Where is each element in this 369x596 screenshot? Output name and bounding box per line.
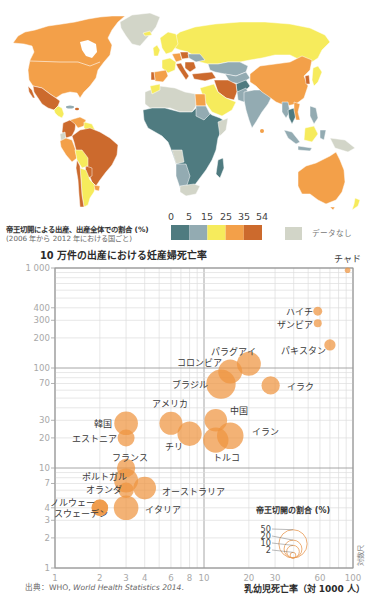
x-tick-label: 4 bbox=[142, 573, 147, 583]
x-tick-label: 20 bbox=[243, 573, 254, 583]
region-new-guinea bbox=[330, 138, 355, 152]
region-portugal bbox=[151, 72, 155, 80]
y-tick-label: 10 bbox=[39, 463, 50, 473]
point-label: ザンビア bbox=[277, 320, 313, 330]
legend-no-data-label: データなし bbox=[312, 228, 352, 238]
y-axis-ticks: 12347102030701002003004001 000 bbox=[25, 263, 55, 573]
source-prefix: 出典：WHO, bbox=[25, 582, 73, 592]
data-bubble bbox=[206, 369, 235, 398]
x-tick-label: 1 bbox=[52, 573, 57, 583]
region-north-america bbox=[13, 16, 125, 98]
point-label: ハイチ bbox=[286, 307, 313, 317]
y-tick-label: 300 bbox=[34, 315, 50, 325]
region-uruguay bbox=[94, 185, 100, 191]
point-label: チリ bbox=[165, 442, 183, 452]
region-korea bbox=[305, 75, 310, 84]
data-bubble bbox=[133, 477, 156, 500]
x-tick-label: 100 bbox=[345, 573, 361, 583]
point-label: ポルトガル bbox=[82, 472, 127, 482]
data-bubble bbox=[314, 319, 322, 327]
legend-break-5: 54 bbox=[256, 211, 268, 222]
chart-point-labels: チャドハイチザンビアパキスタンパラグアイコロンビアブラジルイラクアメリカ中国イラ… bbox=[50, 254, 361, 519]
data-bubble bbox=[313, 307, 322, 316]
chart-bubbles bbox=[92, 267, 351, 520]
data-bubble bbox=[114, 495, 139, 520]
world-choropleth-map bbox=[13, 13, 360, 210]
source-suffix: . bbox=[181, 583, 183, 592]
region-south-africa bbox=[180, 184, 200, 196]
legend-break-0: 0 bbox=[168, 211, 174, 222]
log-scale-note: 対数尺 bbox=[356, 544, 365, 566]
region-sulawesi bbox=[320, 130, 326, 140]
region-greenland bbox=[120, 13, 160, 46]
x-tick-label: 10 bbox=[199, 573, 210, 583]
y-tick-label: 20 bbox=[39, 433, 50, 443]
x-tick-label: 3 bbox=[123, 573, 128, 583]
point-label: エストニア bbox=[72, 434, 117, 444]
infographic: 帝王切開による出産、出産全体での割合 (%) (2006 年から 2012 年に… bbox=[0, 0, 369, 596]
y-tick-label: 3 bbox=[45, 515, 50, 525]
point-label: フランス bbox=[112, 453, 148, 463]
point-label: ノルウェー bbox=[50, 498, 95, 508]
legend-swatch-5-15 bbox=[189, 225, 207, 240]
y-tick-label: 30 bbox=[39, 415, 50, 425]
point-label: パキスタン bbox=[281, 346, 326, 356]
data-bubble bbox=[118, 429, 135, 446]
source-note: 出典：WHO, World Health Statistics 2014. bbox=[25, 582, 184, 592]
legend-break-2: 15 bbox=[201, 211, 213, 222]
size-legend-circles: 5020102 bbox=[261, 524, 308, 558]
x-tick-label: 60 bbox=[314, 573, 325, 583]
x-tick-label: 2 bbox=[97, 573, 102, 583]
legend-swatch-15-25 bbox=[207, 225, 225, 240]
region-uk bbox=[153, 45, 160, 56]
size-legend-circle bbox=[279, 530, 307, 558]
legend-break-3: 25 bbox=[220, 211, 232, 222]
region-sumatra bbox=[284, 130, 300, 144]
y-tick-label: 1 000 bbox=[25, 263, 50, 273]
point-label: オランダ bbox=[86, 484, 122, 495]
region-angola bbox=[172, 150, 184, 164]
region-borneo bbox=[304, 126, 318, 142]
point-label: イタリア bbox=[145, 505, 181, 515]
point-label: イラン bbox=[252, 427, 279, 437]
x-axis-ticks: 12346810203060100 bbox=[52, 573, 361, 583]
legend-swatch-35-54 bbox=[244, 225, 262, 240]
point-label: アメリカ bbox=[152, 399, 188, 409]
region-scandinavia bbox=[160, 32, 178, 54]
point-label: オーストラリア bbox=[162, 487, 225, 497]
y-tick-label: 70 bbox=[39, 378, 50, 388]
region-philippines bbox=[310, 106, 318, 124]
region-turkey bbox=[192, 72, 216, 81]
point-label: コロンビア bbox=[177, 358, 222, 368]
source-title: World Health Statistics 2014 bbox=[73, 583, 182, 592]
region-egypt bbox=[195, 94, 206, 106]
legend-break-4: 35 bbox=[238, 211, 250, 222]
size-legend-circle bbox=[284, 540, 302, 558]
point-label: パラグアイ bbox=[211, 346, 256, 357]
region-sri-lanka bbox=[260, 129, 264, 133]
point-label: 中国 bbox=[230, 405, 248, 416]
region-caribbean-1 bbox=[66, 106, 74, 109]
map-legend: 帝王切開による出産、出産全体での割合 (%) (2006 年から 2012 年に… bbox=[6, 211, 352, 243]
legend-swatch-no-data bbox=[285, 227, 302, 240]
data-bubble bbox=[345, 267, 351, 273]
x-tick-label: 8 bbox=[187, 573, 192, 583]
y-tick-label: 1 bbox=[45, 563, 50, 573]
region-madagascar bbox=[216, 158, 224, 178]
region-caribbean-2 bbox=[75, 108, 79, 110]
region-spain bbox=[154, 70, 168, 82]
x-axis-label: 乳幼児死亡率（対 1000 人） bbox=[244, 583, 365, 594]
chart-title: 10 万件の出産における妊産婦死亡率 bbox=[40, 249, 207, 261]
size-legend-value: 2 bbox=[266, 545, 271, 555]
region-balkans bbox=[185, 62, 196, 72]
data-bubble bbox=[261, 376, 279, 394]
data-bubble bbox=[203, 427, 228, 452]
x-tick-label: 6 bbox=[168, 573, 173, 583]
legend-swatch-0-5 bbox=[171, 225, 189, 240]
region-java bbox=[298, 146, 312, 151]
point-label: 韓国 bbox=[94, 419, 112, 429]
y-tick-label: 400 bbox=[34, 303, 50, 313]
size-legend-circle bbox=[290, 552, 296, 558]
point-label: イラク bbox=[287, 382, 314, 392]
bubble-chart: 10 万件の出産における妊産婦死亡率 123471020307010020030… bbox=[25, 249, 365, 594]
